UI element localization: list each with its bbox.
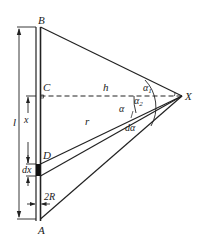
label-2R: 2R bbox=[44, 191, 55, 202]
label-l: l bbox=[13, 116, 16, 128]
label-A: A bbox=[37, 224, 45, 236]
dalpha-pointer bbox=[131, 111, 133, 118]
label-dx: dx bbox=[22, 164, 32, 175]
label-x: x bbox=[23, 114, 29, 125]
dx-element bbox=[36, 164, 41, 176]
line-A-X bbox=[41, 96, 183, 219]
2R-arrow-left-icon bbox=[41, 202, 47, 206]
alpha1-arc bbox=[174, 93, 175, 96]
label-alpha1: α1 bbox=[143, 82, 152, 95]
label-r: r bbox=[85, 115, 90, 127]
label-C: C bbox=[43, 81, 51, 93]
label-h: h bbox=[103, 81, 109, 93]
line-dx-bottom-X bbox=[41, 96, 183, 176]
dx-arrow-up-icon bbox=[26, 177, 30, 183]
label-dalpha: dα bbox=[125, 122, 136, 133]
label-D: D bbox=[42, 149, 51, 161]
line-B-X bbox=[41, 27, 183, 96]
2R-arrow-right-icon bbox=[30, 202, 36, 206]
label-alpha: α bbox=[119, 103, 125, 114]
label-alpha2: α2 bbox=[134, 95, 143, 108]
label-B: B bbox=[38, 14, 45, 26]
l-arrow-up-icon bbox=[17, 28, 21, 35]
line-D-X-r bbox=[41, 96, 183, 164]
l-arrow-down-icon bbox=[17, 211, 21, 218]
label-X: X bbox=[184, 90, 193, 102]
rod-field-diagram: B C D A X h r l x dx 2R α1 α α2 dα bbox=[0, 0, 204, 247]
x-arrow-up-icon bbox=[26, 97, 30, 103]
